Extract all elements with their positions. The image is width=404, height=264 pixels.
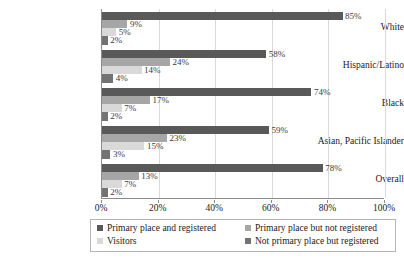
bar-group: 85%9%5%2% xyxy=(102,12,384,45)
bar-value-label: 2% xyxy=(110,112,122,121)
bar-value-label: 3% xyxy=(113,150,125,159)
bar xyxy=(102,150,110,158)
legend-label: Visitors xyxy=(107,236,137,247)
bar xyxy=(102,88,311,96)
bar-row: 7% xyxy=(102,180,384,188)
x-tick-label: 20% xyxy=(149,204,166,214)
bar-row: 15% xyxy=(102,142,384,150)
legend-grid: Primary place and registeredPrimary plac… xyxy=(97,223,389,247)
legend-swatch-icon xyxy=(97,238,103,244)
bar-row: 2% xyxy=(102,112,384,120)
bar-group: 59%23%15%3% xyxy=(102,126,384,159)
x-tick-label: 80% xyxy=(319,204,336,214)
bar-group: 78%13%7%2% xyxy=(102,164,384,197)
bar-row: 14% xyxy=(102,66,384,74)
legend-label: Not primary place but registered xyxy=(255,236,378,247)
legend-item[interactable]: Not primary place but registered xyxy=(245,236,397,247)
x-tick-label: 100% xyxy=(373,204,395,214)
bar-group: 74%17%7%2% xyxy=(102,88,384,121)
legend-item[interactable]: Primary place and registered xyxy=(97,223,245,234)
bar xyxy=(102,188,108,196)
x-tick-label: 60% xyxy=(262,204,279,214)
legend-item[interactable]: Visitors xyxy=(97,236,245,247)
bar xyxy=(102,112,108,120)
bar-value-label: 2% xyxy=(110,188,122,197)
bar-chart: WhiteHispanic/LatinoBlackAsian, Pacific … xyxy=(0,0,404,264)
bar-row: 3% xyxy=(102,150,384,158)
bar-group: 58%24%14%4% xyxy=(102,50,384,83)
bar-row: 59% xyxy=(102,126,384,134)
x-axis-ticks: 0%20%40%60%80%100% xyxy=(101,200,384,216)
plot-area: 85%9%5%2%58%24%14%4%74%17%7%2%59%23%15%3… xyxy=(101,9,384,199)
bar-row: 2% xyxy=(102,36,384,44)
bar-row: 5% xyxy=(102,28,384,36)
legend-item[interactable]: Primary place but not registered xyxy=(245,223,397,234)
x-tick-label: 0% xyxy=(95,204,108,214)
bar-row: 17% xyxy=(102,96,384,104)
legend-swatch-icon xyxy=(245,225,251,231)
bar-value-label: 4% xyxy=(116,74,128,83)
legend-swatch-icon xyxy=(97,225,103,231)
bar xyxy=(102,164,323,172)
bar-row: 4% xyxy=(102,74,384,82)
bar-row: 58% xyxy=(102,50,384,58)
legend-label: Primary place and registered xyxy=(107,223,216,234)
bar-value-label: 2% xyxy=(110,36,122,45)
bar-row: 9% xyxy=(102,20,384,28)
bar-row: 2% xyxy=(102,188,384,196)
bar-row: 23% xyxy=(102,134,384,142)
bar xyxy=(102,36,108,44)
legend: Primary place and registeredPrimary plac… xyxy=(90,219,396,252)
legend-swatch-icon xyxy=(245,238,251,244)
bar-row: 13% xyxy=(102,172,384,180)
bar-row: 7% xyxy=(102,104,384,112)
x-tick-label: 40% xyxy=(205,204,222,214)
bar-row: 74% xyxy=(102,88,384,96)
gridline xyxy=(385,9,386,198)
legend-label: Primary place but not registered xyxy=(255,223,377,234)
bar-row: 85% xyxy=(102,12,384,20)
bar xyxy=(102,74,113,82)
